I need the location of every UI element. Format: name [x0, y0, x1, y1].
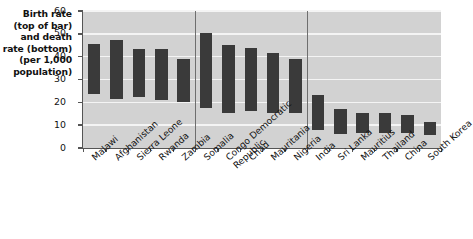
x-label-line: South Korea: [426, 118, 473, 162]
x-axis-label-south-korea: South Korea: [426, 118, 473, 162]
